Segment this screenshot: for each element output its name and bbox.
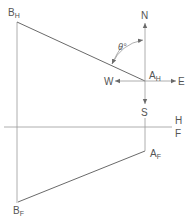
label-fold-h: H <box>175 115 182 126</box>
label-b-f: BF <box>13 205 24 217</box>
label-fold-f: F <box>175 128 181 139</box>
label-north: N <box>141 10 148 21</box>
label-b-h: BH <box>8 7 20 19</box>
label-west: W <box>104 76 114 87</box>
line-bf-af <box>18 151 145 202</box>
angle-arc-icon <box>112 40 143 64</box>
projection-diagram: BH AH AF BF N S W E H F θ° <box>0 0 192 220</box>
label-theta: θ° <box>118 42 127 52</box>
label-south: S <box>141 107 148 118</box>
label-east: E <box>178 76 185 87</box>
label-a-h: AH <box>149 70 161 82</box>
label-a-f: AF <box>150 148 161 160</box>
